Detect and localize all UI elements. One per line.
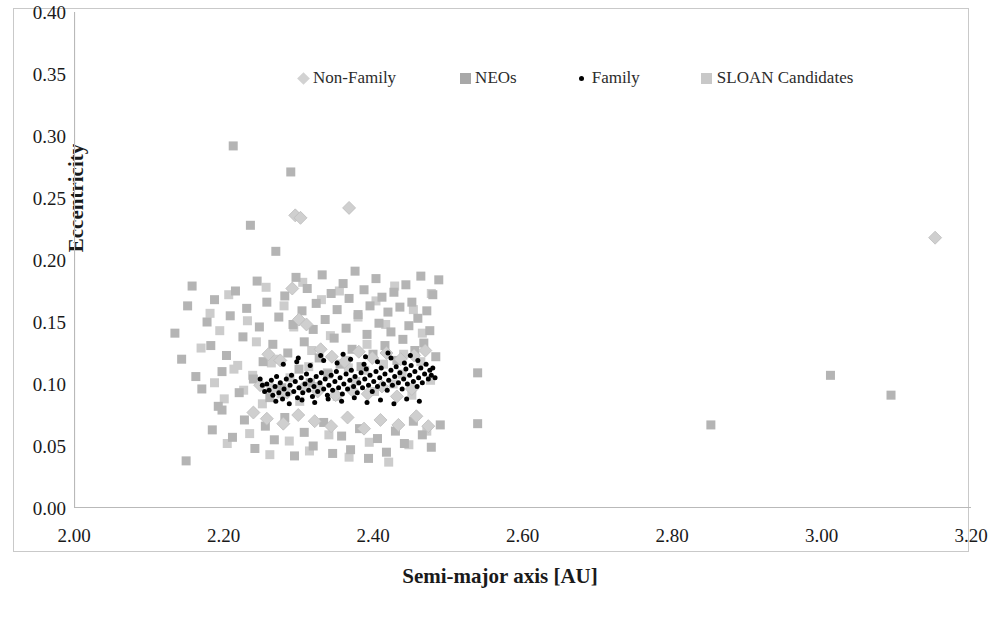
data-point xyxy=(431,352,440,361)
data-point xyxy=(218,367,227,376)
data-point xyxy=(473,368,482,377)
data-point xyxy=(427,443,436,452)
data-point xyxy=(306,388,311,393)
data-point xyxy=(390,390,403,403)
data-point xyxy=(289,373,294,378)
legend-square-marker-icon xyxy=(460,73,471,84)
legend-item-family[interactable]: Family xyxy=(575,66,640,90)
data-point xyxy=(385,351,390,356)
data-point xyxy=(288,383,293,388)
data-point xyxy=(328,449,337,458)
data-point xyxy=(384,458,393,467)
data-point xyxy=(374,319,383,328)
data-point xyxy=(226,311,235,320)
data-point xyxy=(375,384,380,389)
data-point xyxy=(413,314,422,323)
data-point xyxy=(265,450,274,459)
data-point xyxy=(274,374,279,379)
data-point xyxy=(363,354,368,359)
data-point xyxy=(416,375,421,380)
data-point xyxy=(238,332,247,341)
legend-item-sloan-candidates[interactable]: SLOAN Candidates xyxy=(700,66,853,90)
data-point xyxy=(407,298,416,307)
data-point xyxy=(365,438,374,447)
data-point xyxy=(342,324,351,333)
data-point xyxy=(326,396,331,401)
data-point xyxy=(351,267,360,276)
data-point xyxy=(252,337,261,346)
data-point xyxy=(360,385,365,390)
data-point xyxy=(383,308,392,317)
data-point xyxy=(302,382,307,387)
data-point xyxy=(425,326,434,335)
data-point xyxy=(292,273,301,282)
data-point xyxy=(362,362,367,367)
data-point xyxy=(264,382,269,387)
data-point xyxy=(312,400,317,405)
data-point xyxy=(345,386,350,391)
data-point xyxy=(422,306,431,315)
data-point xyxy=(377,375,382,380)
x-tick-label: 2.80 xyxy=(637,526,707,545)
data-point xyxy=(269,378,274,383)
data-point xyxy=(292,409,305,422)
data-point xyxy=(363,340,372,349)
legend-square-marker-icon xyxy=(701,73,712,84)
data-point xyxy=(183,301,192,310)
data-point xyxy=(296,385,301,390)
series-non-family xyxy=(247,201,942,435)
data-point xyxy=(403,367,408,372)
data-point xyxy=(362,377,367,382)
data-point xyxy=(255,322,264,331)
data-point xyxy=(388,368,393,373)
data-point xyxy=(379,365,384,370)
data-point xyxy=(353,374,358,379)
data-point xyxy=(287,401,292,406)
x-axis-title: Semi-major axis [AU] xyxy=(340,564,660,589)
series-neos xyxy=(170,141,895,465)
data-point xyxy=(268,340,277,349)
data-point xyxy=(246,221,255,230)
data-point xyxy=(354,310,363,319)
data-point xyxy=(282,386,287,391)
data-point xyxy=(337,432,346,441)
x-tick-label: 3.00 xyxy=(787,526,857,545)
legend-item-neos[interactable]: NEOs xyxy=(458,66,517,90)
data-point xyxy=(281,362,286,367)
x-tick-label: 2.20 xyxy=(189,526,259,545)
data-point xyxy=(218,406,227,415)
data-point xyxy=(308,378,313,383)
data-point xyxy=(374,413,387,426)
data-point xyxy=(420,380,425,385)
data-point xyxy=(388,355,393,360)
data-point xyxy=(231,287,240,296)
data-point xyxy=(286,167,295,176)
data-point xyxy=(280,396,285,401)
data-point xyxy=(341,352,346,357)
data-point xyxy=(345,294,354,303)
x-tick-label: 2.60 xyxy=(488,526,558,545)
data-point xyxy=(312,299,321,308)
legend-item-non-family[interactable]: Non-Family xyxy=(296,66,396,90)
data-point xyxy=(382,448,391,457)
data-point xyxy=(365,400,370,405)
legend-diamond-marker-icon xyxy=(297,72,310,85)
data-point xyxy=(260,383,265,388)
data-point xyxy=(206,341,215,350)
data-point xyxy=(405,382,410,387)
data-point xyxy=(321,358,326,363)
data-point xyxy=(358,422,371,435)
data-point xyxy=(370,389,375,394)
data-point xyxy=(412,369,417,374)
data-point xyxy=(360,285,369,294)
data-point xyxy=(395,303,404,312)
data-point xyxy=(285,437,294,446)
data-point xyxy=(308,363,313,368)
data-point xyxy=(341,382,346,387)
data-point xyxy=(326,383,331,388)
legend-marker-wrap xyxy=(700,73,714,84)
data-point xyxy=(177,355,186,364)
data-point xyxy=(415,358,420,363)
data-point xyxy=(385,388,390,393)
